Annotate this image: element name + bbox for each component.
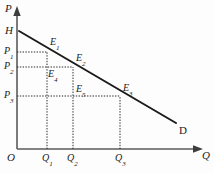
demand-curve-label: D — [179, 125, 187, 136]
quantity-tick-q2: Q2 — [67, 153, 78, 166]
point-label-e4-sub: 4 — [54, 76, 58, 84]
y-axis — [13, 6, 20, 149]
quantity-tick-q3-sub: 3 — [122, 160, 126, 168]
point-label-e1-sub: 1 — [56, 44, 60, 52]
point-label-e3-sub: 3 — [129, 90, 133, 98]
point-label-e5-sub: 5 — [82, 91, 86, 99]
point-label-e2: E2 — [76, 53, 86, 66]
point-label-e3: E3 — [123, 83, 133, 96]
price-tick-p3-sub: 3 — [10, 97, 14, 105]
price-tick-p2-sub: 2 — [10, 68, 14, 76]
origin-label: O — [7, 152, 15, 163]
demand-curve-figure: P Q O H D P1 P2 P3 Q1 Q2 Q3 E1 E2 E3 E4 … — [0, 0, 214, 173]
demand-curve-svg — [0, 0, 214, 173]
quantity-tick-q2-sub: 2 — [74, 160, 78, 168]
demand-curve-line — [19, 31, 176, 123]
point-label-e5: E5 — [76, 84, 86, 97]
quantity-tick-q1-sub: 1 — [49, 160, 53, 168]
x-axis-label: Q — [202, 150, 210, 161]
price-tick-p2: P2 — [4, 61, 14, 74]
y-axis-label: P — [5, 3, 12, 14]
point-label-e4: E4 — [48, 69, 58, 82]
point-label-e1: E1 — [50, 37, 60, 50]
y-axis-arrowhead — [13, 6, 20, 16]
quantity-tick-q3: Q3 — [115, 153, 126, 166]
intercept-label-h: H — [5, 25, 13, 36]
point-label-e2-sub: 2 — [82, 60, 86, 68]
price-tick-p3: P3 — [4, 90, 14, 103]
quantity-tick-q1: Q1 — [42, 153, 53, 166]
price-tick-p1-sub: 1 — [10, 53, 14, 61]
price-tick-p1: P1 — [4, 46, 14, 59]
